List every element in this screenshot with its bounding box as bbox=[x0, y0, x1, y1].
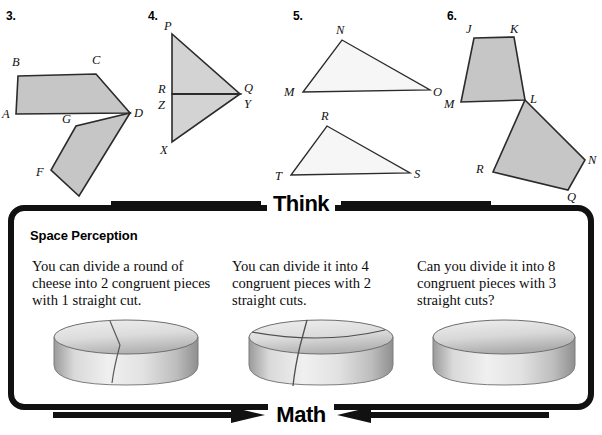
quadrilateral-jklm bbox=[461, 37, 525, 102]
vertex-label-q2: Q bbox=[567, 190, 576, 203]
vertex-label-b: B bbox=[12, 55, 20, 69]
figure-6-diagram: J K M L R N Q bbox=[440, 18, 602, 203]
column-3-text: Can you divide it into 8 congruent piece… bbox=[417, 258, 592, 309]
vertex-label-c: C bbox=[92, 53, 101, 67]
column-1: You can divide a round of cheese into 2 … bbox=[32, 258, 222, 309]
vertex-label-q: Q bbox=[244, 81, 253, 95]
vertex-label-m2: M bbox=[443, 97, 455, 111]
figure-4-diagram: P R Z X Q Y bbox=[140, 18, 270, 168]
cheese-top-2 bbox=[249, 320, 393, 354]
vertex-label-n2: N bbox=[587, 153, 597, 167]
cheese-wheel-no-cuts bbox=[428, 315, 583, 395]
vertex-label-m: M bbox=[283, 85, 295, 99]
vertex-label-t: T bbox=[275, 169, 283, 183]
triangle-prq bbox=[172, 34, 240, 94]
vertex-label-j: J bbox=[466, 22, 473, 36]
vertex-label-a: A bbox=[1, 107, 10, 121]
vertex-label-g: G bbox=[62, 112, 71, 126]
triangle-rst bbox=[291, 126, 410, 175]
polygon-abcd bbox=[16, 74, 130, 114]
cheese-top-1 bbox=[54, 320, 198, 354]
vertex-label-p: P bbox=[163, 19, 172, 33]
vertex-label-r: R bbox=[157, 82, 166, 96]
cheese-wheel-one-cut bbox=[48, 315, 208, 395]
cheese-top-3 bbox=[433, 320, 575, 354]
vertex-label-z: Z bbox=[158, 98, 166, 112]
column-2-text: You can divide it into 4 congruent piece… bbox=[232, 258, 407, 309]
figure-3-diagram: B C A D G F E bbox=[0, 18, 160, 198]
vertex-label-n: N bbox=[335, 23, 345, 37]
section-title: Space Perception bbox=[30, 228, 138, 243]
figure-5-diagram: N M O R T S bbox=[275, 18, 445, 198]
vertex-label-s: S bbox=[414, 167, 421, 181]
quadrilateral-lnqr bbox=[493, 100, 585, 190]
vertex-label-y: Y bbox=[244, 97, 253, 111]
column-3: Can you divide it into 8 congruent piece… bbox=[417, 258, 592, 309]
vertex-label-k: K bbox=[509, 22, 519, 36]
vertex-label-x: X bbox=[159, 143, 169, 157]
column-1-text: You can divide a round of cheese into 2 … bbox=[32, 258, 222, 309]
column-2: You can divide it into 4 congruent piece… bbox=[232, 258, 407, 309]
vertex-label-l: L bbox=[529, 92, 537, 106]
vertex-label-r2: R bbox=[320, 109, 329, 123]
vertex-label-r3: R bbox=[475, 162, 484, 176]
triangle-zxy bbox=[172, 94, 240, 142]
vertex-label-f: F bbox=[35, 165, 44, 179]
triangle-mno bbox=[303, 40, 430, 92]
cheese-wheel-two-cuts bbox=[243, 315, 403, 395]
